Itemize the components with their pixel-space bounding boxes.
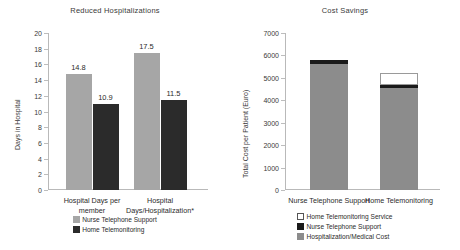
plot-area-left: 2018161412108642014.810.9Hospital Days p… (48, 33, 208, 190)
y-axis-line-left (48, 33, 49, 190)
left-tick-label: 14 (34, 77, 42, 84)
left-tick (44, 127, 48, 128)
legend-right: Home Telemonitoring ServiceNurse Telepho… (230, 212, 460, 244)
left-tick-label: 10 (34, 108, 42, 115)
legend-item[interactable]: Home Telemonitoring Service (297, 212, 392, 221)
stacked-bar[interactable] (310, 60, 348, 190)
left-tick-label: 18 (34, 45, 42, 52)
legend-label: Hospitalization/Medical Cost (306, 232, 389, 241)
right-tick (281, 168, 285, 169)
legend-swatch-icon (297, 223, 304, 230)
right-tick (281, 33, 285, 34)
bar-value-label: 11.5 (166, 89, 180, 98)
bar-segment-nurse-telephone-support[interactable] (310, 60, 348, 64)
x-axis-category-label: Home Telemonitoring (356, 196, 442, 206)
legend-left-inner: Nurse Telephone SupportHome Telemonitori… (73, 215, 157, 235)
legend-swatch-icon (297, 213, 304, 220)
bar-value-label: 17.5 (139, 42, 154, 51)
left-tick-label: 4 (38, 155, 42, 162)
left-tick-label: 20 (34, 30, 42, 37)
legend-label: Nurse Telephone Support (82, 215, 157, 224)
left-tick-label: 12 (34, 92, 42, 99)
right-tick-label: 5000 (263, 74, 279, 81)
left-tick (44, 96, 48, 97)
legend-swatch-icon (73, 226, 80, 233)
left-tick (44, 33, 48, 34)
bar-value-label: 10.9 (98, 93, 113, 102)
bar-home-telemonitoring[interactable] (161, 100, 187, 190)
bar-nurse-telephone-support[interactable] (66, 74, 92, 190)
legend-right-inner: Home Telemonitoring ServiceNurse Telepho… (297, 212, 392, 242)
right-tick (281, 100, 285, 101)
legend-swatch-icon (297, 233, 304, 240)
right-tick (281, 123, 285, 124)
legend-label: Home Telemonitoring (82, 225, 144, 234)
bar-nurse-telephone-support[interactable] (134, 53, 160, 190)
stacked-bar[interactable] (380, 73, 418, 190)
right-tick-label: 0 (275, 187, 279, 194)
bar-home-telemonitoring[interactable] (93, 104, 119, 190)
left-tick-label: 8 (38, 124, 42, 131)
left-tick-label: 16 (34, 61, 42, 68)
y-axis-label-right: Total Cost per Patient (Euro) (242, 90, 249, 178)
chart-title-left: Reduced Hospitalizations (0, 6, 230, 15)
left-tick (44, 64, 48, 65)
left-tick (44, 190, 48, 191)
plot-area-right: 70006000500040003000200010000Nurse Telep… (285, 33, 440, 190)
legend-left: Nurse Telephone SupportHome Telemonitori… (0, 215, 230, 237)
bar-segment-hospitalization-medical-cost[interactable] (310, 64, 348, 190)
chart-panel-cost-savings: Cost Savings Total Cost per Patient (Eur… (230, 0, 460, 250)
legend-item[interactable]: Home Telemonitoring (73, 225, 157, 234)
right-tick-label: 6000 (263, 52, 279, 59)
bar-segment-home-telemonitoring-service[interactable] (380, 73, 418, 85)
left-tick (44, 159, 48, 160)
right-tick-label: 7000 (263, 30, 279, 37)
x-axis-category-label: Hospital Days/Hospitalization* (118, 196, 202, 216)
left-tick (44, 174, 48, 175)
y-axis-label-left: Days in Hospital (14, 99, 21, 150)
right-tick-label: 3000 (263, 119, 279, 126)
bar-value-label: 14.8 (71, 63, 86, 72)
right-tick (281, 145, 285, 146)
chart-panel-reduced-hospitalizations: Reduced Hospitalizations Days in Hospita… (0, 0, 230, 250)
left-tick-label: 0 (38, 187, 42, 194)
left-tick-label: 2 (38, 171, 42, 178)
legend-label: Home Telemonitoring Service (306, 212, 392, 221)
left-tick (44, 143, 48, 144)
y-axis-line-right (285, 33, 286, 190)
right-tick (281, 190, 285, 191)
right-tick-label: 4000 (263, 97, 279, 104)
right-tick (281, 55, 285, 56)
legend-item[interactable]: Nurse Telephone Support (73, 215, 157, 224)
chart-title-right: Cost Savings (230, 6, 460, 15)
bar-segment-nurse-telephone-support[interactable] (380, 85, 418, 88)
right-tick-label: 2000 (263, 142, 279, 149)
bar-segment-hospitalization-medical-cost[interactable] (380, 88, 418, 190)
legend-item[interactable]: Nurse Telephone Support (297, 222, 392, 231)
left-tick (44, 112, 48, 113)
left-tick-label: 6 (38, 139, 42, 146)
right-tick-label: 1000 (263, 164, 279, 171)
figure-container: Reduced Hospitalizations Days in Hospita… (0, 0, 460, 250)
legend-swatch-icon (73, 216, 80, 223)
left-tick (44, 80, 48, 81)
legend-item[interactable]: Hospitalization/Medical Cost (297, 232, 392, 241)
left-tick (44, 49, 48, 50)
right-tick (281, 78, 285, 79)
legend-label: Nurse Telephone Support (306, 222, 381, 231)
